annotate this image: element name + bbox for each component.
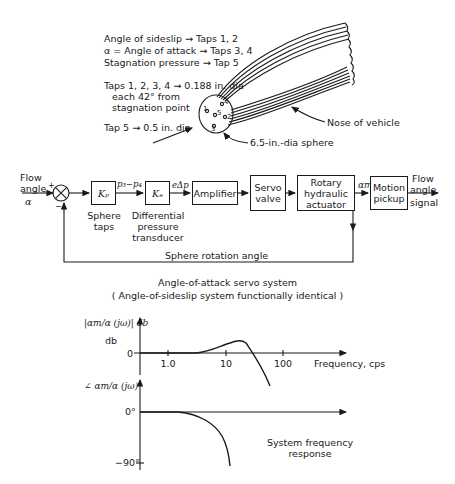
input-label-1: Flow [20, 172, 42, 183]
tap-number-2: 2 [227, 112, 231, 123]
plus-sign: + [48, 180, 55, 191]
frequency-xlabel: Frequency, cps [314, 358, 385, 369]
output-label-3: signal [410, 197, 438, 208]
block-rotary-actuator: Rotary hydraulic actuator [297, 175, 355, 211]
tick-100: 100 [268, 358, 298, 369]
feedback-label: Sphere rotation angle [165, 250, 268, 261]
note-attack: α = Angle of attack → Taps 3, 4 [104, 45, 253, 56]
block-amplifier: Amplifier [192, 181, 238, 205]
signal-e-dp: eΔp [172, 180, 189, 191]
input-label-2: angle [20, 183, 46, 194]
magnitude-zero: 0 [127, 348, 133, 359]
note-sideslip: Angle of sideslip → Taps 1, 2 [104, 33, 238, 44]
diagram-caption-1: Angle-of-attack servo system [0, 277, 455, 288]
taps-spec-2: each 42° from [112, 91, 180, 102]
caption-transducer: transducer [127, 232, 189, 243]
magnitude-ylabel: |αm/α (jω)| db [84, 318, 148, 329]
phase-curve [140, 412, 230, 466]
block-sphere-taps: Kₚ [91, 181, 116, 205]
note-stagnation: Stagnation pressure → Tap 5 [104, 57, 239, 68]
caption-taps: taps [82, 221, 126, 232]
tap-number-4: 4 [224, 97, 228, 108]
taps-spec-3: stagnation point [112, 102, 190, 113]
block-servo-valve: Servo valve [250, 175, 286, 211]
minus-sign: − [55, 201, 62, 212]
pickup-label-1: Motion [373, 182, 405, 193]
phase-minus90: −90° [115, 457, 140, 468]
input-label-alpha: α [25, 196, 31, 207]
chart-caption-1: System frequency [260, 437, 360, 448]
block-transducer: Kₑ [145, 181, 170, 205]
actuator-label-2: hydraulic [304, 188, 348, 199]
actuator-label-3: actuator [306, 199, 346, 210]
tick-10: 10 [211, 358, 241, 369]
servo-label-1: Servo [254, 182, 281, 193]
signal-p-diff: p₃−p₄ [117, 179, 142, 190]
phase-ylabel: ∠ αm/α (jω) [84, 381, 138, 392]
amplifier-label: Amplifier [194, 188, 237, 199]
taps-spec-1: Taps 1, 2, 3, 4 → 0.188 in. dia [104, 80, 244, 91]
caption-pressure: pressure [127, 221, 189, 232]
pickup-label-2: pickup [373, 193, 404, 204]
tap-number-1: 1 [203, 104, 207, 115]
tap-number-5: 5 [217, 108, 221, 119]
caption-differential: Differential [127, 210, 189, 221]
diagram-lineart [0, 0, 455, 484]
phase-zero: 0° [125, 406, 136, 417]
output-label-1: Flow [412, 173, 434, 184]
diagram-caption-2: ( Angle-of-sideslip system functionally … [0, 290, 455, 301]
block-motion-pickup: Motion pickup [370, 176, 408, 210]
nose-label: Nose of vehicle [327, 117, 400, 128]
actuator-label-1: Rotary [310, 177, 341, 188]
tap5-spec: Tap 5 → 0.5 in. dia [104, 122, 190, 133]
magnitude-unit: db [105, 335, 117, 346]
chart-caption-2: response [260, 448, 360, 459]
sphere-label: 6.5-in.-dia sphere [250, 137, 334, 148]
caption-sphere: Sphere [82, 210, 126, 221]
servo-label-2: valve [255, 193, 281, 204]
tap-number-3: 3 [211, 124, 215, 135]
output-label-2: angle [410, 184, 436, 195]
tick-1: 1.0 [153, 358, 183, 369]
